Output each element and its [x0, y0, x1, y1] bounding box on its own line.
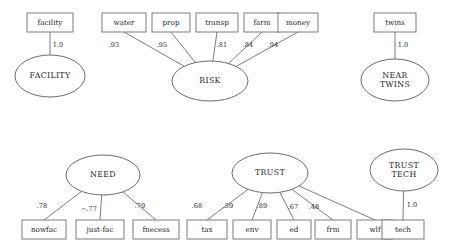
sem-path-diagram: FACILITYfacility1.0RISKwater.93prop.95tr…: [0, 0, 465, 250]
indicator-label-money: money: [286, 18, 311, 27]
coefficient-risk-money: .94: [268, 41, 279, 49]
coefficient-risk-prop: .95: [157, 41, 168, 49]
edge-risk-money: [236, 32, 298, 66]
factor-label-near-twins: TWINS: [380, 80, 410, 89]
indicator-label-farm: farm: [253, 18, 270, 27]
coefficient-need-nowfac: .78: [37, 202, 48, 210]
indicator-label-tech: tech: [395, 225, 411, 234]
factor-label-near-twins: NEAR: [382, 71, 408, 80]
indicator-label-frm: frm: [327, 225, 340, 234]
edge-trust-tech-tech: [403, 191, 404, 220]
coefficient-risk-transp: .81: [217, 41, 228, 49]
coefficient-need-just-fac: −.77: [81, 205, 97, 213]
coefficient-trust-wlf: .48: [309, 203, 320, 211]
factor-label-need: NEED: [90, 170, 116, 179]
edge-need-just-fac: [100, 195, 102, 220]
indicator-label-ed: ed: [290, 225, 299, 234]
diagram-canvas: FACILITYfacility1.0RISKwater.93prop.95tr…: [0, 0, 465, 250]
factor-label-trust-tech: TECH: [391, 170, 416, 179]
indicator-label-wlf: wlf: [369, 225, 381, 234]
coefficient-facility-facility: 1.0: [53, 41, 64, 49]
coefficient-risk-farm: .84: [243, 41, 254, 49]
indicator-label-water: water: [113, 18, 135, 27]
edge-need-nowfac: [44, 191, 82, 220]
coefficient-trust-tech-tech: 1.0: [407, 201, 418, 209]
indicator-label-tax: tax: [201, 225, 212, 234]
factor-label-risk: RISK: [199, 76, 221, 85]
indicator-label-transp: transp: [205, 18, 229, 27]
factor-label-trust: TRUST: [255, 168, 285, 177]
coefficient-trust-env: .59: [223, 202, 234, 210]
coefficient-trust-frm: .67: [288, 203, 299, 211]
indicator-label-fnecess: fnecess: [142, 225, 170, 234]
indicator-label-just-fac: just-fac: [86, 225, 114, 234]
coefficient-need-fnecess: .79: [135, 202, 146, 210]
coefficient-risk-water: .93: [109, 41, 120, 49]
indicator-label-prop: prop: [163, 18, 180, 27]
edge-risk-prop: [171, 32, 195, 63]
coefficient-trust-tax: .68: [192, 202, 203, 210]
factor-label-trust-tech: TRUST: [389, 161, 419, 170]
coefficient-trust-ed: .89: [257, 202, 268, 210]
coefficient-near-twins-twins: 1.0: [398, 41, 409, 49]
indicator-label-nowfac: nowfac: [31, 225, 57, 234]
indicator-label-facility: facility: [38, 18, 64, 27]
indicator-label-twins: twins: [385, 18, 405, 27]
labels-layer: FACILITYfacility1.0RISKwater.93prop.95tr…: [30, 18, 420, 234]
indicator-label-env: env: [246, 225, 260, 234]
factor-label-facility: FACILITY: [30, 71, 71, 80]
